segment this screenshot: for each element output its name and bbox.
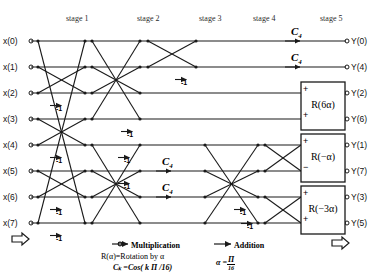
figure-canvas: stage 1stage 2stage 3stage 4stage 5 x(0)… bbox=[0, 0, 377, 280]
output-label-Y5: Y(5) bbox=[351, 218, 367, 228]
output-label-Y6: Y(6) bbox=[351, 114, 367, 124]
direction-arrows bbox=[12, 233, 349, 249]
output-label-Y0: Y(0) bbox=[351, 36, 367, 46]
stage-label-5: stage 5 bbox=[320, 14, 342, 23]
rotation-block-label-1: R(−α) bbox=[304, 151, 342, 162]
minus-one-coefficient: -1 bbox=[247, 223, 253, 230]
cosine-coefficient-c4: C4 bbox=[291, 25, 302, 40]
rotation-block-2-bottom-sign: + bbox=[303, 214, 308, 224]
legend-alpha-fraction: Π16 bbox=[227, 256, 235, 271]
legend-alpha-denominator: 16 bbox=[227, 265, 235, 271]
minus-one-coefficient: -1 bbox=[124, 157, 130, 164]
input-label-x6: x(6) bbox=[3, 192, 18, 202]
output-label-Y7: Y(7) bbox=[351, 166, 367, 176]
cosine-index: 4 bbox=[169, 162, 173, 170]
legend-alpha-lhs: α = bbox=[216, 258, 227, 267]
input-label-x0: x(0) bbox=[3, 36, 18, 46]
cosine-index: 4 bbox=[169, 188, 173, 196]
input-label-x5: x(5) bbox=[3, 166, 18, 176]
legend-addition-text: Addition bbox=[234, 241, 264, 250]
minus-one-coefficient: -1 bbox=[56, 235, 62, 242]
input-label-x3: x(3) bbox=[3, 114, 18, 124]
legend-alpha-definition: α =Π16 bbox=[216, 256, 235, 271]
rotation-block-label-2: R(−3α) bbox=[304, 203, 342, 214]
cosine-coefficient-c4: C4 bbox=[162, 181, 173, 196]
rotation-block-label-0: R(6α) bbox=[304, 99, 342, 110]
stage-label-4: stage 4 bbox=[253, 14, 275, 23]
cosine-index: 4 bbox=[298, 58, 302, 66]
stage-label-1: stage 1 bbox=[66, 14, 88, 23]
output-label-Y3: Y(3) bbox=[351, 192, 367, 202]
cosine-coefficient-c4: C4 bbox=[291, 51, 302, 66]
minus-one-coefficient: -1 bbox=[56, 105, 62, 112]
legend-multiplication-text: Multiplication bbox=[131, 241, 180, 250]
input-label-x1: x(1) bbox=[3, 62, 18, 72]
cosine-coefficient-c4: C4 bbox=[162, 155, 173, 170]
stage-label-2: stage 2 bbox=[137, 14, 159, 23]
input-label-x7: x(7) bbox=[3, 218, 18, 228]
cosine-index: 4 bbox=[298, 32, 302, 40]
output-label-Y2: Y(2) bbox=[351, 88, 367, 98]
rotation-block-2-top-sign: + bbox=[303, 188, 308, 198]
rotation-block-0-top-sign: + bbox=[303, 84, 308, 94]
minus-one-coefficient: -1 bbox=[56, 157, 62, 164]
legend-rotation-text: R(α)=Rotation by α bbox=[101, 252, 164, 261]
input-label-x2: x(2) bbox=[3, 88, 18, 98]
minus-one-coefficient: -1 bbox=[124, 183, 130, 190]
rotation-block-1-top-sign: + bbox=[303, 136, 308, 146]
rotation-block-0-bottom-sign: + bbox=[303, 110, 308, 120]
output-label-Y1: Y(1) bbox=[351, 140, 367, 150]
signal-wires bbox=[31, 41, 346, 223]
rotation-block-1-bottom-sign: − bbox=[303, 162, 308, 172]
stage-label-3: stage 3 bbox=[199, 14, 221, 23]
minus-one-coefficient: -1 bbox=[56, 209, 62, 216]
legend-alpha-numerator: Π bbox=[227, 256, 235, 265]
input-label-x4: x(4) bbox=[3, 140, 18, 150]
output-label-Y4: Y(4) bbox=[351, 62, 367, 72]
legend-cosine-text: Cₖ =Cos( k Π /16) bbox=[113, 263, 172, 272]
minus-one-coefficient: -1 bbox=[181, 79, 187, 86]
operation-arrows bbox=[50, 41, 300, 236]
minus-one-coefficient: -1 bbox=[240, 209, 246, 216]
minus-one-coefficient: -1 bbox=[127, 131, 133, 138]
